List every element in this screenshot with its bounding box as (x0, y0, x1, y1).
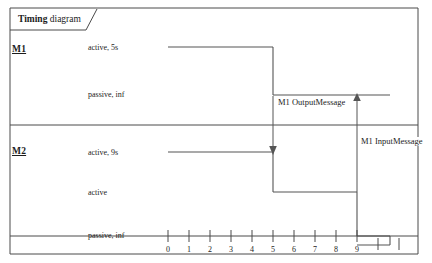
state-label-m2-active9s: active, 9s (88, 149, 118, 157)
axis-tick-label-5: 5 (267, 246, 279, 254)
panel-tab-title: Timing diagram (18, 15, 81, 25)
axis-ticks (168, 230, 399, 250)
timing-diagram-panel: Timing diagram M1 M2 active, 5s passive,… (0, 0, 432, 263)
state-label-m2-active: active (88, 189, 107, 197)
axis-tick-label-3: 3 (225, 246, 237, 254)
signal-m1 (168, 47, 390, 95)
axis-tick-label-0: 0 (162, 246, 174, 254)
axis-tick-label-9: 9 (351, 246, 363, 254)
axis-tick-label-4: 4 (246, 246, 258, 254)
axis-tick-label-2: 2 (204, 246, 216, 254)
state-label-m2-passive: passive, inf (88, 232, 124, 240)
axis-tick-label-7: 7 (309, 246, 321, 254)
axis-tick-label-8: 8 (330, 246, 342, 254)
axis-tick-label-1: 1 (183, 246, 195, 254)
message-label-input: M1 InputMessage (360, 137, 424, 146)
state-label-m1-passive: passive, inf (88, 91, 124, 99)
message-label-output: M1 OutputMessage (277, 98, 346, 107)
axis-tick-label-6: 6 (288, 246, 300, 254)
diagram-canvas (0, 0, 432, 263)
track-label-m2: M2 (12, 147, 26, 157)
panel-tab-title-bold: Timing (18, 14, 47, 24)
panel-tab-title-rest: diagram (47, 14, 81, 24)
state-label-m1-active: active, 5s (88, 44, 118, 52)
track-label-m1: M1 (12, 45, 26, 55)
